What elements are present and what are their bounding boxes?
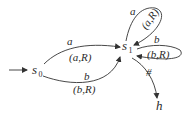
s0-label: s <box>32 62 37 77</box>
edge-halt-symbol: # <box>146 66 152 78</box>
edge-b-symbol: b <box>84 70 90 82</box>
state-diagram: s 0 s 1 h a (a,R) b (b,R) a (a,R) b (b,R… <box>0 0 189 115</box>
edge-b-action: (b,R) <box>73 83 96 96</box>
edge-a-symbol: a <box>67 35 73 47</box>
state-s1: s 1 <box>122 38 133 55</box>
loop-b-action: (b,R) <box>147 48 170 61</box>
edge-s1-h <box>132 58 157 98</box>
s0-subscript: 0 <box>39 70 43 79</box>
loop-a-symbol: a <box>130 5 136 17</box>
edge-a-action: (a,R) <box>69 51 92 64</box>
state-s0: s 0 <box>32 62 43 79</box>
loop-b-symbol: b <box>154 33 160 45</box>
state-h: h <box>156 98 163 113</box>
s1-subscript: 1 <box>129 46 133 55</box>
